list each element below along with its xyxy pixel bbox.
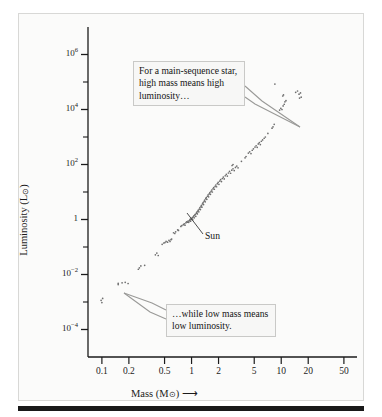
y-axis-label: Luminosity (L⊙)	[18, 132, 29, 272]
x-axis-label-sun-symbol: ⊙	[169, 390, 176, 399]
y-axis-ticks	[81, 55, 88, 330]
x-tick-label: 2	[201, 366, 237, 376]
x-tick-label: 20	[290, 366, 326, 376]
sun-point-label: Sun	[205, 230, 220, 241]
y-tick-label: 10−4	[34, 323, 78, 333]
y-tick-label: 106	[34, 48, 78, 58]
y-tick-label: 10−2	[34, 268, 78, 278]
x-tick-label: 0.2	[111, 366, 147, 376]
y-tick-label: 1	[34, 213, 78, 223]
x-axis-label-arrow: ⟶	[182, 388, 197, 399]
mass-luminosity-figure: Luminosity (L⊙) Mass (M⊙) ⟶ 106104102110…	[0, 0, 382, 417]
callout-leader-lines	[124, 86, 300, 319]
x-axis-label: Mass (M⊙) ⟶	[131, 387, 197, 399]
x-tick-label: 50	[326, 366, 362, 376]
data-point-group	[100, 83, 302, 303]
y-axis-label-close: )	[18, 184, 29, 188]
y-tick-label: 102	[34, 158, 78, 168]
x-axis-label-close: )	[176, 388, 180, 399]
x-axis-ticks	[102, 357, 344, 364]
y-tick-label: 104	[34, 103, 78, 113]
y-axis-label-sun-symbol: ⊙	[21, 188, 30, 195]
x-axis-label-text: Mass (M	[131, 388, 169, 399]
callout-low-mass: …while low mass means low luminosity.	[166, 304, 276, 337]
callout-high-mass: For a main-sequence star, high mass mean…	[133, 61, 245, 106]
y-axis-label-text: Luminosity (L	[18, 195, 29, 256]
